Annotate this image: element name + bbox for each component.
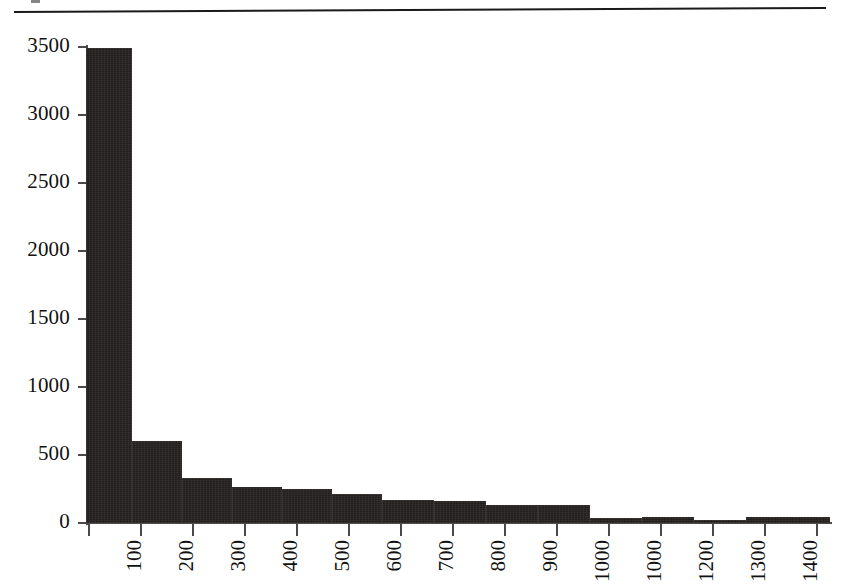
- x-axis-tick: [764, 524, 766, 536]
- histogram-bar: [182, 478, 232, 523]
- x-axis-tick: [816, 524, 818, 536]
- x-axis-tick: [244, 524, 246, 536]
- x-axis-tick-label: 1400: [800, 540, 821, 582]
- x-axis-tick: [504, 524, 506, 536]
- x-axis-tick-label: 600: [384, 540, 405, 572]
- x-axis-tick-label: 400: [280, 540, 301, 572]
- histogram-bar: [434, 501, 486, 523]
- histogram-bar: [746, 517, 830, 523]
- y-axis-tick-label: 1500: [0, 307, 70, 328]
- x-axis-tick: [452, 524, 454, 536]
- x-axis-tick: [140, 524, 142, 536]
- x-axis-tick: [88, 524, 90, 536]
- x-axis-tick: [660, 524, 662, 536]
- histogram-bar: [232, 487, 282, 523]
- x-axis-tick-label: 500: [332, 540, 353, 572]
- histogram-bar: [590, 518, 642, 523]
- x-axis-tick: [296, 524, 298, 536]
- histogram-bar: [332, 494, 382, 523]
- x-axis-tick: [556, 524, 558, 536]
- x-axis-tick: [400, 524, 402, 536]
- x-axis-tick-label: 700: [436, 540, 457, 572]
- y-axis-tick-label: 500: [0, 443, 70, 464]
- y-axis-tick-label: 1000: [0, 375, 70, 396]
- histogram-bar: [642, 517, 694, 523]
- histogram-bar: [282, 489, 332, 523]
- histogram-bar: [694, 520, 746, 523]
- y-axis-tick-label: 0: [0, 511, 70, 532]
- histogram-bar: [538, 505, 590, 523]
- plot-area: 0500100015002000250030003500 10020030040…: [0, 0, 841, 586]
- y-axis-tick-label: 2500: [0, 171, 70, 192]
- x-axis-tick: [348, 524, 350, 536]
- x-axis-tick: [608, 524, 610, 536]
- histogram-bar: [486, 505, 538, 523]
- y-axis-tick-label: 3000: [0, 103, 70, 124]
- x-axis-tick-label: 800: [488, 540, 509, 572]
- x-axis-tick-label: 1000: [644, 540, 665, 582]
- x-axis-tick-label: 200: [176, 540, 197, 572]
- histogram-bar: [132, 441, 182, 523]
- x-axis-tick: [192, 524, 194, 536]
- y-axis-tick-label: 2000: [0, 239, 70, 260]
- x-axis-tick-label: 300: [228, 540, 249, 572]
- y-axis-tick-label: 3500: [0, 35, 70, 56]
- x-axis-tick-label: 1000: [592, 540, 613, 582]
- x-axis-tick: [712, 524, 714, 536]
- histogram-bar: [86, 48, 132, 523]
- x-axis-tick-label: 100: [124, 540, 145, 572]
- histogram-bar: [382, 500, 434, 523]
- x-axis-tick-label: 1200: [696, 540, 717, 582]
- x-axis-tick-label: 900: [540, 540, 561, 572]
- histogram-figure: 0500100015002000250030003500 10020030040…: [0, 0, 841, 586]
- x-axis-tick-label: 1300: [748, 540, 769, 582]
